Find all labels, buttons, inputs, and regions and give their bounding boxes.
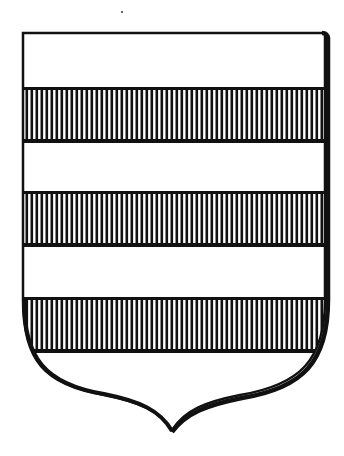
ink-dot xyxy=(121,11,123,13)
shield-field xyxy=(0,0,344,456)
bar-3 xyxy=(20,297,330,353)
heraldic-shield-canvas: Escutcheon barry with three bars hatched… xyxy=(0,0,344,456)
bar-2 xyxy=(20,191,330,247)
shield-graphic xyxy=(0,0,344,456)
bar-1 xyxy=(20,87,330,143)
